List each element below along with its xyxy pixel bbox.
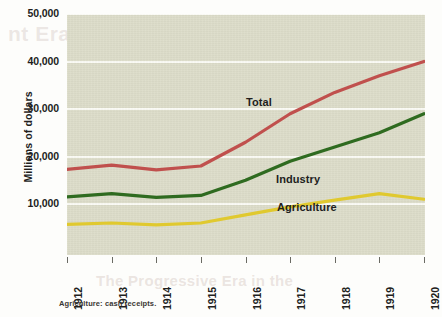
series-line-total [67,62,424,170]
series-line-industry [67,114,424,198]
line-chart-figure: Millions of dollars 50,00040,00030,00020… [0,0,442,317]
x-tick-label: 1920 [429,287,441,310]
x-tick-mark [67,257,68,263]
y-tick-label: 10,000 [0,197,59,209]
series-line-agriculture [67,194,424,225]
plot-area [67,14,425,255]
y-tick-label: 50,000 [0,7,59,19]
x-tick-mark [379,257,380,263]
series-label-agriculture: Agriculture [277,201,337,213]
x-tick-mark [112,257,113,263]
y-tick-label: 20,000 [0,150,59,162]
x-tick-mark [424,257,425,263]
x-tick-mark [290,257,291,263]
x-tick-label: 1915 [206,287,218,310]
x-tick-mark [156,257,157,263]
y-axis-title: Millions of dollars [22,62,34,212]
x-tick-mark [201,257,202,263]
x-tick-mark [246,257,247,263]
chart-footnote: Agriculture: cash receipts. [59,299,156,308]
series-label-total: Total [246,96,272,108]
x-tick-label: 1917 [295,287,307,310]
series-lines [67,14,425,255]
x-tick-label: 1916 [251,287,263,310]
x-tick-label: 1914 [161,287,173,310]
x-tick-mark [335,257,336,263]
x-tick-label: 1919 [384,287,396,310]
series-label-industry: Industry [276,173,320,185]
x-tick-label: 1918 [340,287,352,310]
y-tick-label: 40,000 [0,55,59,67]
y-tick-label: 30,000 [0,102,59,114]
